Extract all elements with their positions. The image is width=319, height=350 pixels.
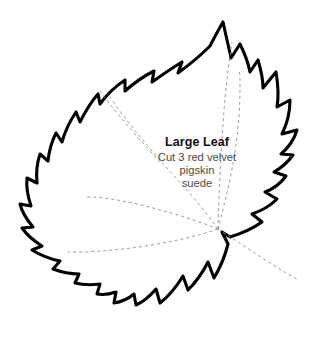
- maple-leaf-pattern-graphic: [0, 0, 319, 350]
- leaf-outline-path: [20, 22, 297, 305]
- leaf-vein-lower-right: [218, 229, 298, 280]
- pattern-sheet: Large Leaf Cut 3 red velvet pigskin sued…: [0, 0, 319, 350]
